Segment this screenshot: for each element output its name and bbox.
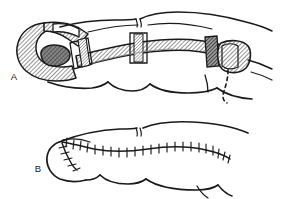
flap-distal-attachment-band (205, 36, 219, 67)
fingertip-defect-dark (41, 45, 70, 66)
panel-a-label: A (11, 71, 18, 82)
panel-b-label: B (35, 163, 42, 174)
figure-canvas: A (0, 0, 281, 199)
surgical-figure: A (0, 0, 281, 199)
flap-midjoint-band (134, 34, 143, 62)
